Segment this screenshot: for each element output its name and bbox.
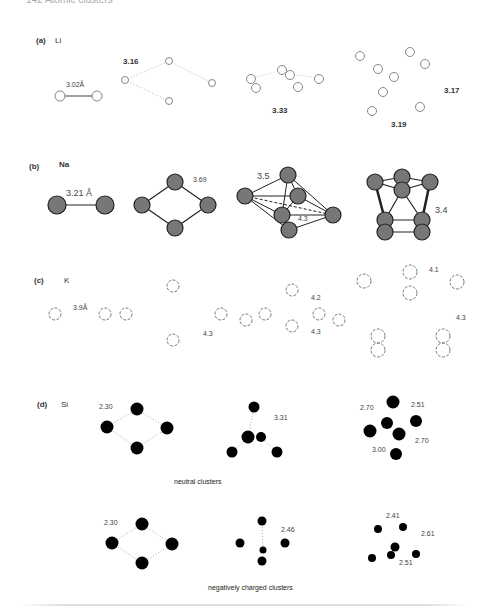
bond-label: 3.33 (272, 106, 288, 115)
bond-label: 2.61 (421, 530, 435, 537)
panel-c-label: (c) (34, 276, 44, 285)
caption-text-fragment (20, 604, 470, 606)
panel-c-element: K (64, 276, 69, 285)
neutral-caption: neutral clusters (174, 478, 221, 485)
bond-label: 3.19 (391, 120, 407, 129)
si-anion-clusters (106, 517, 421, 570)
bond-label: 4.3 (311, 328, 321, 335)
bond-label: 3.5 (257, 171, 270, 181)
na-clusters (48, 167, 438, 240)
bond-label: 3.31 (274, 414, 288, 421)
li-clusters (55, 48, 430, 116)
bond-label: 2.70 (360, 404, 374, 411)
bond-label: 2.51 (411, 401, 425, 408)
panel-d-element: Si (61, 400, 68, 409)
bond-label: 3.69 (193, 176, 207, 183)
bond-label: 4.3 (203, 330, 213, 337)
panel-d-label: (d) (37, 400, 47, 409)
bond-label: 2.51 (399, 559, 413, 566)
bond-label: 2.41 (386, 512, 400, 519)
bond-label: 4.3 (456, 314, 466, 321)
bond-label: 3.02Å (66, 81, 84, 88)
bond-label: 4.3 (298, 215, 308, 222)
bond-label: 3.00 (372, 446, 386, 453)
bond-label: 4.1 (429, 266, 439, 273)
k-clusters (49, 265, 464, 357)
bond-label: 2.30 (99, 403, 113, 410)
bond-label: 3.21 Å (66, 188, 92, 198)
panel-a-label: (a) (36, 36, 46, 45)
bond-label: 4.2 (311, 294, 321, 301)
bond-label: 3.17 (444, 86, 460, 95)
panel-a-element: Li (55, 36, 61, 45)
panel-b-element: Na (59, 160, 69, 169)
bond-label: 3.4 (435, 205, 448, 215)
bond-label: 3.16 (123, 57, 139, 66)
bond-label: 2.30 (104, 519, 118, 526)
bond-label: 2.70 (415, 437, 429, 444)
bond-label: 3.9Å (73, 304, 87, 311)
panel-b-label: (b) (29, 162, 39, 171)
anion-caption: negatively charged clusters (208, 584, 293, 591)
bond-label: 2.46 (281, 526, 295, 533)
